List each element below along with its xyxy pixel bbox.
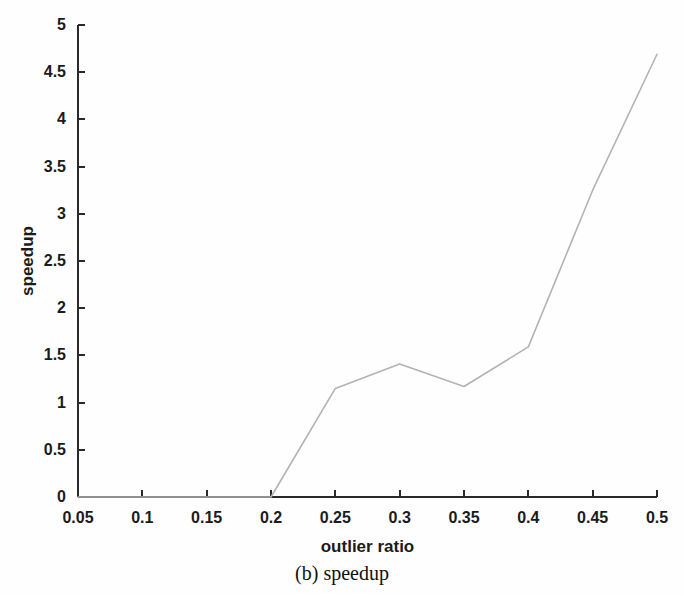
x-tick-label: 0.45 — [577, 509, 608, 527]
y-tick-label: 0 — [0, 488, 66, 506]
x-tick-label: 0.35 — [448, 509, 479, 527]
y-tick-label: 1.5 — [0, 346, 66, 364]
y-tick-label: 2 — [0, 299, 66, 317]
x-tick-label: 0.3 — [389, 509, 411, 527]
x-tick-label: 0.2 — [260, 509, 282, 527]
figure-caption: (b) speedup — [0, 562, 684, 585]
y-tick-label: 1 — [0, 394, 66, 412]
x-tick-label: 0.1 — [131, 509, 153, 527]
data-series — [78, 54, 657, 497]
y-tick-label: 4 — [0, 110, 66, 128]
axes — [78, 25, 657, 497]
x-tick-label: 0.5 — [646, 509, 668, 527]
y-tick-label: 5 — [0, 16, 66, 34]
x-tick-label: 0.15 — [191, 509, 222, 527]
speedup-line — [78, 54, 657, 497]
y-tick-label: 4.5 — [0, 63, 66, 81]
speedup-figure: 00.511.522.533.544.55 0.050.10.150.20.25… — [0, 0, 684, 595]
x-axis-label: outlier ratio — [268, 537, 468, 557]
y-tick-label: 3.5 — [0, 158, 66, 176]
x-tick-label: 0.4 — [517, 509, 539, 527]
y-tick-label: 0.5 — [0, 441, 66, 459]
x-tick-label: 0.25 — [320, 509, 351, 527]
x-tick-label: 0.05 — [62, 509, 93, 527]
y-axis-label: speedup — [18, 221, 38, 301]
chart-plot-area — [0, 0, 684, 595]
